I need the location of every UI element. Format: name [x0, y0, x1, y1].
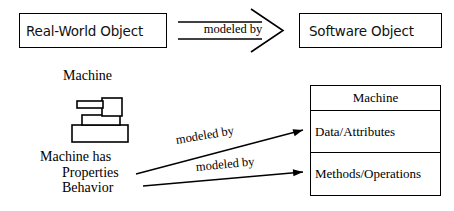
software-object-label: Software Object	[309, 23, 414, 39]
machine-illustration	[72, 98, 128, 142]
class-box-operations-compartment: Methods/Operations	[311, 153, 440, 195]
machine-has-heading: Machine has	[40, 149, 119, 165]
arrow-label-modeled-by-methods: modeled by	[195, 154, 255, 175]
machine-attribute-properties: Properties	[40, 165, 119, 181]
real-world-object-label: Real-World Object	[26, 23, 143, 39]
diagram-canvas: Real-World Object modeled by Software Ob…	[0, 0, 454, 211]
class-box-name: Machine	[311, 86, 440, 111]
machine-class-box: Machine Data/Attributes Methods/Operatio…	[310, 85, 441, 196]
machine-icon-caption: Machine	[63, 68, 112, 84]
arrow-label-modeled-by-data: modeled by	[175, 123, 235, 147]
machine-attributes-list: Machine has Properties Behavior	[40, 149, 119, 196]
software-object-box: Software Object	[299, 13, 442, 48]
machine-attribute-behavior: Behavior	[40, 180, 119, 196]
block-arrow-label: modeled by	[191, 22, 275, 37]
real-world-object-box: Real-World Object	[19, 13, 167, 48]
class-box-attributes-compartment: Data/Attributes	[311, 111, 440, 153]
